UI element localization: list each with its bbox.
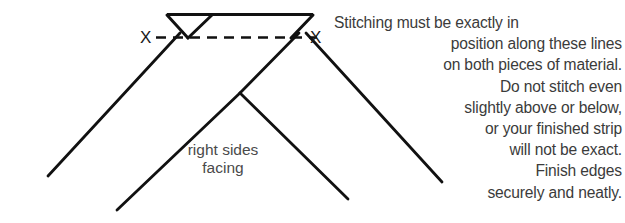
stitch-point-marker-left: X: [140, 29, 151, 46]
right-sides-facing-line-1: right sides: [148, 141, 298, 159]
instruction-line-4: Do not stitch even: [330, 76, 622, 97]
stitch-point-marker-right: X: [310, 29, 321, 46]
instruction-line-9: securely and neatly.: [330, 182, 622, 203]
instruction-line-6: or your finished strip: [330, 118, 622, 139]
right-sides-facing-line-2: facing: [148, 159, 298, 177]
instruction-line-1: Stitching must be exactly in: [330, 12, 622, 33]
instruction-line-5: slightly above or below,: [330, 97, 622, 118]
instruction-text-block: Stitching must be exactly in position al…: [330, 12, 622, 203]
instruction-line-2: position along these lines: [330, 33, 622, 54]
instruction-line-7: will not be exact.: [330, 139, 622, 160]
left-fold-line-b: [188, 15, 212, 38]
instruction-line-3: on both pieces of material.: [330, 54, 622, 75]
center-left-diagonal: [240, 33, 299, 93]
sewing-diagram-figure: X X right sides facing Stitching must be…: [0, 0, 625, 223]
right-sides-facing-label: right sides facing: [148, 141, 298, 177]
instruction-line-8: Finish edges: [330, 160, 622, 181]
